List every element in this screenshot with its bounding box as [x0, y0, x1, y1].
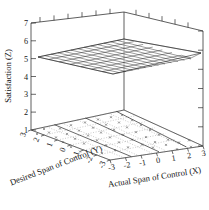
z-tick-labels: 7 6 5 4 3 2 1: [24, 19, 28, 135]
x-tick-label: -3: [108, 163, 116, 173]
x-tick-label: 2: [186, 151, 191, 161]
response-surface: [38, 39, 201, 74]
top-edge-ticks: [40, 9, 188, 28]
z-axis-title: Satisfaction (Z): [3, 49, 13, 103]
y-tick-label: -3: [97, 160, 108, 170]
y-tick-label: 0: [58, 146, 68, 153]
y-tick-label: 2: [31, 136, 41, 143]
z-tick-label: 4: [24, 73, 28, 82]
floor-contour-lines: [55, 111, 187, 156]
z-tick-label: 2: [24, 108, 28, 117]
x-tick-label: 1: [171, 153, 176, 163]
x-axis-title: Actual Span of Control (X): [107, 165, 202, 190]
y-tick-label: 1: [45, 141, 55, 148]
z-tick-label: 3: [24, 90, 28, 99]
y-axis-title: Desired Span of Control (Y): [8, 143, 103, 187]
x-tick-label: -1: [139, 158, 147, 168]
z-tick-label: 6: [24, 37, 28, 46]
z-tick-label: 5: [24, 55, 28, 64]
plot-canvas: 7 6 5 4 3 2 1 Satisfaction (Z): [0, 0, 209, 210]
surface-plot-figure: 7 6 5 4 3 2 1 Satisfaction (Z): [0, 0, 209, 210]
x-tick-label: -2: [123, 160, 131, 170]
z-axis-ticks-right: [198, 31, 203, 146]
z-axis-ticks-left: [31, 23, 36, 130]
y-axis-title-text: Desired Span of Control (Y): [8, 143, 103, 187]
x-tick-label: 3: [201, 149, 206, 159]
x-tick-label: 0: [155, 156, 160, 166]
floor-grid: [31, 110, 203, 160]
z-tick-label: 7: [24, 19, 28, 28]
axis-box-frame: [31, 12, 203, 160]
